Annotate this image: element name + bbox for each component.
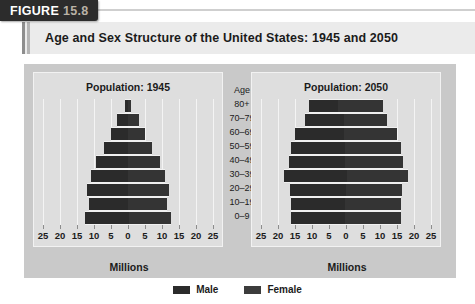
bar-row	[261, 211, 431, 225]
bar-male	[91, 169, 128, 183]
bar-row	[43, 113, 213, 127]
axis-tick-label: 10	[157, 230, 168, 241]
bar-female	[345, 211, 401, 225]
bar-male	[295, 127, 344, 141]
bar-row	[43, 155, 213, 169]
legend-swatch-female	[244, 286, 261, 294]
bar-female	[128, 183, 169, 197]
axis-tick-label: 20	[273, 230, 284, 241]
figure-tag-word: FIGURE	[10, 4, 59, 18]
axis-tick-label: 20	[55, 230, 66, 241]
axis-tick-labels-2050: 2520151050510152025	[261, 229, 431, 242]
axis-tick-label: 15	[174, 230, 185, 241]
pyramid-panel-1945: Population: 1945 2520151050510152025 Mil…	[33, 72, 223, 247]
bar-male	[96, 155, 128, 169]
bar-male	[87, 183, 128, 197]
bar-row	[43, 99, 213, 113]
bar-row	[43, 211, 213, 225]
chart-panel: Population: 1945 2520151050510152025 Mil…	[24, 64, 456, 278]
pyramid-panel-2050: Population: 2050 2520151050510152025 Mil…	[251, 72, 441, 247]
bar-male	[289, 155, 345, 169]
bar-female	[128, 113, 139, 127]
bar-female	[128, 155, 160, 169]
axis-tick-label: 15	[392, 230, 403, 241]
axis-tick-label: 20	[409, 230, 420, 241]
legend-swatch-male	[173, 286, 190, 294]
bar-row	[43, 127, 213, 141]
axis-title-2050: Millions	[252, 261, 442, 273]
axis-tick-label: 25	[38, 230, 49, 241]
bar-male	[284, 169, 347, 183]
axis-tick-label: 0	[343, 230, 348, 241]
bar-male	[290, 183, 346, 197]
axis-tick-label: 5	[360, 230, 365, 241]
bar-row	[261, 169, 431, 183]
figure-tag-rule	[98, 9, 475, 11]
bar-female	[344, 127, 397, 141]
axis-2050: 2520151050510152025	[261, 225, 431, 242]
title-accent-bar-light	[27, 22, 30, 54]
bar-female	[345, 141, 401, 155]
bar-row	[261, 99, 431, 113]
bar-row	[43, 169, 213, 183]
axis-title-1945: Millions	[34, 261, 224, 273]
plot-area-2050	[261, 99, 431, 225]
bar-male	[291, 197, 345, 211]
bar-female	[129, 211, 172, 225]
axis-tick-label: 25	[256, 230, 267, 241]
bar-female	[128, 169, 165, 183]
bar-male	[85, 211, 129, 225]
bar-female	[347, 169, 408, 183]
page-title: Age and Sex Structure of the United Stat…	[45, 31, 398, 45]
axis-tick-label: 5	[142, 230, 147, 241]
axis-tick-label: 15	[72, 230, 83, 241]
bar-female	[128, 99, 132, 113]
axis-tick-label: 10	[375, 230, 386, 241]
axis-tick-label: 25	[208, 230, 219, 241]
axis-tick-label: 5	[326, 230, 331, 241]
axis-tick-label: 20	[191, 230, 202, 241]
axis-tick-label: 5	[108, 230, 113, 241]
bar-male	[89, 197, 128, 211]
bar-male	[104, 141, 128, 155]
panel-heading-2050: Population: 2050	[252, 81, 440, 93]
legend-item: Female	[244, 284, 301, 295]
legend-label: Female	[267, 284, 301, 295]
bar-male	[291, 211, 345, 225]
bar-male	[291, 141, 345, 155]
bar-female	[338, 99, 382, 113]
bar-female	[128, 141, 152, 155]
axis-1945: 2520151050510152025	[43, 225, 213, 242]
bar-female	[346, 183, 402, 197]
axis-tick-labels-1945: 2520151050510152025	[43, 229, 213, 242]
bar-row	[261, 141, 431, 155]
bar-male	[117, 113, 127, 127]
legend-label: Male	[196, 284, 218, 295]
bar-female	[345, 197, 401, 211]
axis-tick-label: 0	[125, 230, 130, 241]
axis-tick-label: 10	[89, 230, 100, 241]
bar-row	[261, 127, 431, 141]
bar-male	[111, 127, 128, 141]
bar-row	[261, 113, 431, 127]
bar-row	[43, 141, 213, 155]
axis-tick-label: 25	[426, 230, 437, 241]
bar-row	[261, 197, 431, 211]
bar-female	[344, 113, 387, 127]
plot-area-1945	[43, 99, 213, 225]
bar-female	[128, 127, 145, 141]
bar-row	[43, 183, 213, 197]
axis-tick-label: 10	[307, 230, 318, 241]
figure-tag-number: 15.8	[63, 4, 89, 18]
bar-row	[261, 183, 431, 197]
figure-tag: FIGURE 15.8	[0, 0, 98, 21]
panel-heading-1945: Population: 1945	[34, 81, 222, 93]
bar-male	[309, 99, 338, 113]
bar-row	[43, 197, 213, 211]
title-accent-bar-dark	[22, 22, 25, 54]
bar-female	[128, 197, 167, 211]
axis-tick-label: 15	[290, 230, 301, 241]
legend: MaleFemale	[0, 284, 475, 295]
legend-item: Male	[173, 284, 218, 295]
bar-row	[261, 155, 431, 169]
